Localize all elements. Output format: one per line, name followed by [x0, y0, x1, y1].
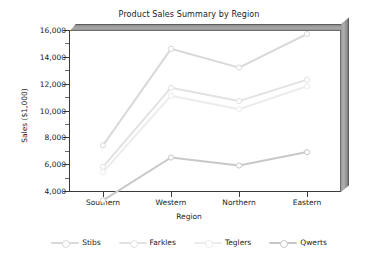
legend-item-qwerts[interactable]: Qwerts [269, 238, 327, 247]
legend-item-farkles[interactable]: Farkles [119, 238, 176, 247]
legend-swatch [194, 238, 222, 247]
legend-item-stibs[interactable]: Stibs [51, 238, 100, 247]
legend-circle-icon [280, 240, 288, 248]
data-point-marker [236, 107, 241, 112]
data-point-marker [304, 150, 309, 155]
data-point-marker [168, 93, 173, 98]
data-point-marker [100, 164, 105, 169]
series-layer [0, 0, 378, 263]
legend-label: Farkles [150, 238, 176, 247]
data-point-marker [304, 77, 309, 82]
legend-circle-icon [130, 240, 138, 248]
legend-label: Teglers [225, 238, 251, 247]
legend-circle-icon [62, 240, 70, 248]
data-point-marker [236, 99, 241, 104]
series-line [103, 86, 307, 172]
legend-item-teglers[interactable]: Teglers [194, 238, 251, 247]
series-qwerts [100, 150, 309, 203]
legend-circle-icon [205, 240, 213, 248]
data-point-marker [168, 46, 173, 51]
legend-label: Qwerts [300, 238, 327, 247]
legend-label: Stibs [82, 238, 100, 247]
data-point-marker [168, 155, 173, 160]
legend-swatch [269, 238, 297, 247]
chart-container: Product Sales Summary by Region 4,0006,0… [0, 0, 378, 263]
legend-swatch [51, 238, 79, 247]
data-point-marker [100, 198, 105, 203]
data-point-marker [100, 170, 105, 175]
series-line [103, 152, 307, 200]
chart-legend: StibsFarklesTeglersQwerts [0, 238, 378, 247]
data-point-marker [100, 143, 105, 148]
legend-swatch [119, 238, 147, 247]
data-point-marker [236, 65, 241, 70]
series-line [103, 80, 307, 167]
data-point-marker [236, 163, 241, 168]
data-point-marker [168, 85, 173, 90]
data-point-marker [304, 31, 309, 36]
data-point-marker [304, 84, 309, 89]
series-farkles [100, 77, 309, 169]
